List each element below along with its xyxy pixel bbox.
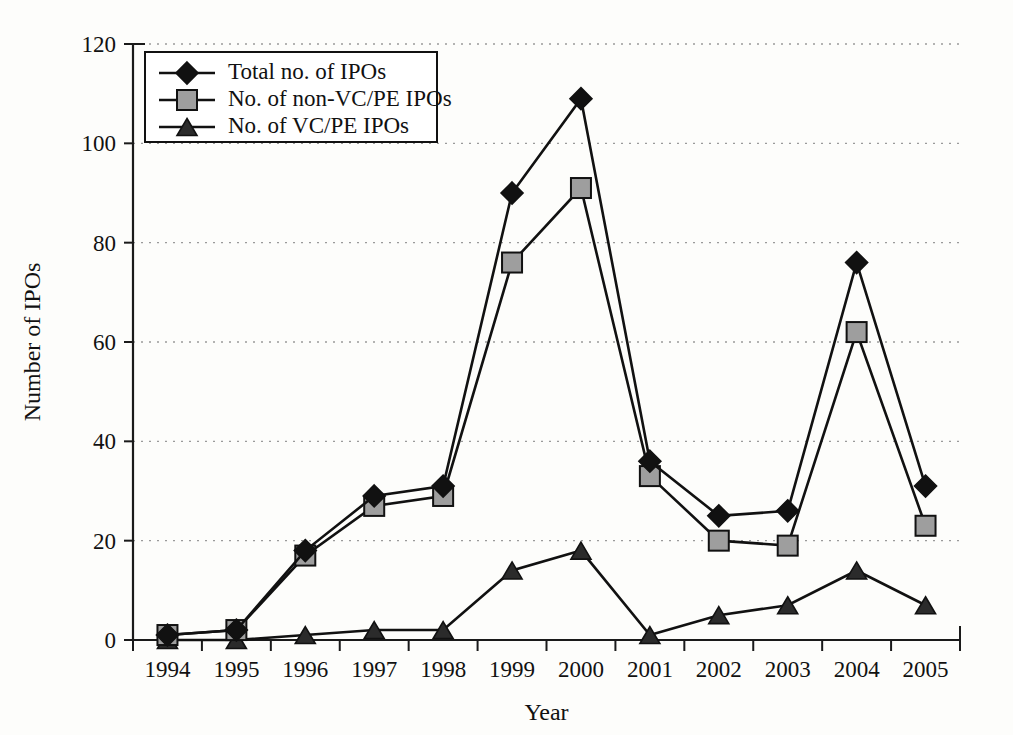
- series-line: [167, 99, 925, 635]
- data-point-square: [709, 531, 729, 551]
- data-point-diamond: [846, 252, 868, 274]
- y-axis: 020406080100120: [82, 32, 134, 653]
- data-point-square: [177, 90, 197, 110]
- x-tick-label: 2000: [558, 657, 604, 682]
- data-point-diamond: [501, 182, 523, 204]
- y-tick-label: 120: [82, 32, 117, 57]
- data-point-square: [916, 516, 936, 536]
- x-tick-label: 2005: [903, 657, 949, 682]
- y-tick-label: 100: [82, 131, 117, 156]
- legend-label: Total no. of IPOs: [228, 59, 386, 84]
- x-tick-label: 2002: [696, 657, 742, 682]
- data-point-square: [502, 253, 522, 273]
- legend-label: No. of VC/PE IPOs: [228, 113, 409, 138]
- y-tick-label: 80: [93, 231, 116, 256]
- x-tick-label: 2003: [765, 657, 811, 682]
- data-point-square: [778, 536, 798, 556]
- y-axis-title: Number of IPOs: [19, 263, 45, 422]
- data-point-diamond: [915, 475, 937, 497]
- data-point-triangle: [502, 562, 522, 579]
- y-tick-label: 60: [93, 330, 116, 355]
- x-tick-label: 1994: [144, 657, 191, 682]
- x-tick-label: 2001: [627, 657, 673, 682]
- x-tick-label: 1999: [489, 657, 535, 682]
- data-point-triangle: [916, 597, 936, 614]
- data-point-triangle: [571, 542, 591, 559]
- data-point-triangle: [847, 562, 867, 579]
- series-3: [157, 542, 935, 648]
- series-line: [167, 188, 925, 635]
- y-tick-label: 40: [93, 429, 116, 454]
- y-tick-label: 20: [93, 529, 116, 554]
- data-point-diamond: [570, 88, 592, 110]
- x-tick-label: 1996: [282, 657, 328, 682]
- x-axis: 1994199519961997199819992000200120022003…: [133, 640, 960, 682]
- x-axis-title: Year: [524, 699, 568, 725]
- chart-canvas: 0204060801001201994199519961997199819992…: [0, 0, 1013, 735]
- y-tick-label: 0: [105, 628, 117, 653]
- data-point-triangle: [640, 627, 660, 644]
- x-tick-label: 1995: [213, 657, 259, 682]
- ipo-line-chart: 0204060801001201994199519961997199819992…: [0, 0, 1013, 735]
- series-line: [167, 551, 925, 640]
- data-point-square: [571, 178, 591, 198]
- series-2: [157, 178, 935, 645]
- legend-label: No. of non-VC/PE IPOs: [228, 86, 452, 111]
- x-tick-label: 1997: [351, 657, 397, 682]
- x-tick-label: 2004: [834, 657, 881, 682]
- x-tick-label: 1998: [420, 657, 466, 682]
- data-point-square: [847, 322, 867, 342]
- series-1: [156, 88, 936, 646]
- legend: Total no. of IPOsNo. of non-VC/PE IPOsNo…: [145, 52, 452, 142]
